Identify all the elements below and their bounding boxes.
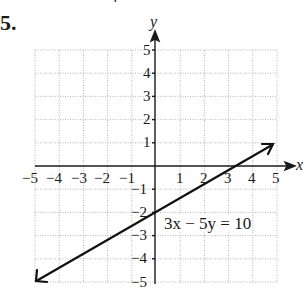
x-tick: −3 bbox=[71, 171, 87, 186]
y-tick: −5 bbox=[131, 275, 147, 290]
x-tick: −1 bbox=[119, 171, 135, 186]
x-tick: 3 bbox=[224, 171, 232, 186]
y-tick: 3 bbox=[143, 89, 151, 104]
y-tick: −3 bbox=[131, 228, 147, 243]
y-tick: −2 bbox=[131, 205, 147, 220]
y-tick: 4 bbox=[143, 66, 151, 81]
y-tick: −4 bbox=[131, 251, 147, 266]
y-axis-label: y bbox=[150, 14, 157, 30]
x-tick: 5 bbox=[272, 171, 280, 186]
y-tick: 5 bbox=[143, 43, 151, 58]
y-tick: 2 bbox=[143, 112, 151, 127]
equation-label: 3x − 5y = 10 bbox=[163, 215, 252, 232]
x-axis-label: x bbox=[296, 157, 303, 173]
x-tick: −5 bbox=[22, 171, 38, 186]
x-tick: −2 bbox=[94, 171, 110, 186]
y-tick: 1 bbox=[143, 135, 151, 150]
x-tick: 2 bbox=[200, 171, 208, 186]
x-tick: 1 bbox=[176, 171, 184, 186]
x-tick: −4 bbox=[46, 171, 62, 186]
axes bbox=[35, 31, 295, 284]
x-tick: 4 bbox=[248, 171, 256, 186]
